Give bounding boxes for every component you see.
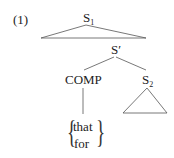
- node-s1: S1: [83, 11, 94, 29]
- sbar-to-comp-branch: [84, 57, 114, 70]
- right-brace-icon: }: [96, 117, 105, 147]
- example-number: (1): [13, 13, 28, 26]
- comp-option-that: that: [73, 120, 93, 133]
- sbar-to-s2-branch: [116, 57, 146, 70]
- node-s2: S2: [142, 73, 153, 91]
- node-s2-subscript: 2: [149, 80, 153, 89]
- node-s1-subscript: 1: [90, 18, 94, 27]
- s2-triangle: [123, 88, 167, 113]
- node-sbar: S′: [111, 43, 121, 56]
- node-comp: COMP: [65, 73, 102, 86]
- comp-option-for: for: [74, 137, 89, 150]
